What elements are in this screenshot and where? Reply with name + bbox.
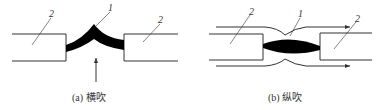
caption-b: (b) 纵吹 <box>268 89 302 104</box>
right-contact <box>124 34 178 61</box>
figure-a <box>12 12 178 82</box>
leader-2-right <box>334 22 356 49</box>
leader-1 <box>290 18 300 36</box>
label-contact-right-a: 2 <box>158 14 163 25</box>
right-contact <box>320 33 372 60</box>
label-contact-left-a: 2 <box>49 8 54 19</box>
leader-2-left <box>230 15 250 44</box>
label-contact-left-b: 2 <box>249 6 254 17</box>
diagram-canvas <box>0 0 387 110</box>
leader-1 <box>95 12 110 27</box>
figure-b <box>209 15 372 66</box>
arc-shape <box>263 39 320 53</box>
label-arc-a: 1 <box>108 2 113 13</box>
left-contact <box>209 34 263 60</box>
label-arc-b: 1 <box>298 8 303 19</box>
label-contact-right-b: 2 <box>355 13 360 24</box>
arc-shape <box>66 24 124 52</box>
leader-2-left <box>32 18 51 45</box>
caption-a: (a) 横吹 <box>72 89 106 104</box>
leader-2-right <box>143 24 160 42</box>
left-contact <box>12 34 66 61</box>
